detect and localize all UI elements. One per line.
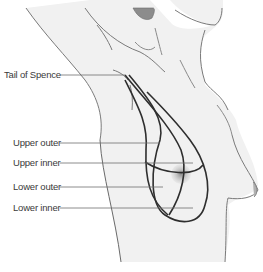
label-upper-inner: Upper inner bbox=[13, 158, 60, 168]
label-lower-inner: Lower inner bbox=[13, 203, 60, 213]
label-tail-of-spence: Tail of Spence bbox=[4, 70, 61, 80]
label-upper-outer: Upper outer bbox=[13, 138, 61, 148]
anatomy-illustration bbox=[0, 0, 263, 272]
torso-silhouette bbox=[26, 0, 258, 262]
areola bbox=[171, 164, 191, 184]
label-lower-outer: Lower outer bbox=[13, 182, 61, 192]
